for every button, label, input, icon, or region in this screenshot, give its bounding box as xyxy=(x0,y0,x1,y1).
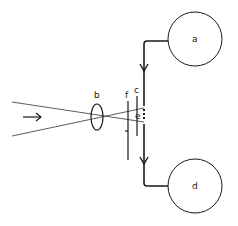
right-arrow-icon xyxy=(23,113,41,121)
label-e: e xyxy=(135,111,141,121)
diagram-canvas: b f c e a d xyxy=(0,0,238,226)
label-d: d xyxy=(192,181,198,191)
light-rays xyxy=(12,102,144,136)
label-f: f xyxy=(125,90,129,100)
label-c: c xyxy=(134,85,139,95)
label-a: a xyxy=(192,34,198,44)
label-b: b xyxy=(94,90,100,100)
conductor xyxy=(144,41,168,186)
sensor-dots xyxy=(143,109,145,119)
